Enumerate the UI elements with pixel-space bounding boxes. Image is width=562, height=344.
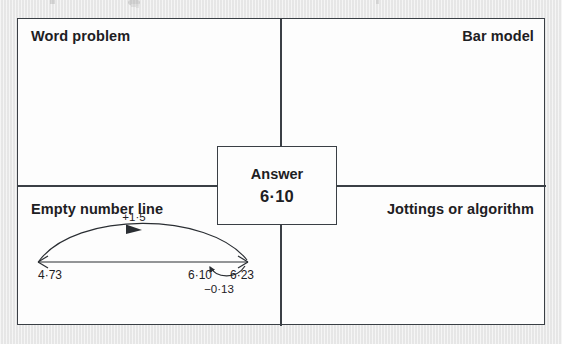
back-jump-label: −0·13 [204,283,234,295]
forward-jump-arc [39,223,247,261]
result-value-label: 6·10 [188,268,212,282]
answer-box[interactable]: Answer 6·10 [217,146,337,225]
quadrant-label-bar-model: Bar model [295,28,534,44]
cropped-text-artifacts [0,0,562,12]
forward-jump-label: +1·5 [122,213,145,223]
worksheet-card: Word problem Bar model Empty number line [17,18,545,325]
start-value-label: 4·73 [38,268,62,282]
number-line-diagram: +1·5 4·73 6·10 6·23 −0·13 [18,213,280,326]
end-value-label: 6·23 [230,268,254,282]
answer-label: Answer [251,166,303,182]
quadrant-label-word-problem: Word problem [31,28,268,44]
answer-value: 6·10 [260,187,294,206]
forward-jump-arrowhead [126,225,142,235]
